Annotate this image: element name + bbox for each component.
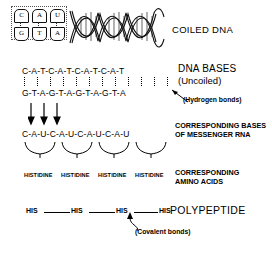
codon-brace-3 <box>136 142 166 154</box>
dna-inset-box: C A U G T A <box>11 6 67 40</box>
label-polypeptide: POLYPEPTIDE <box>170 204 245 216</box>
dna-double-helix-icon <box>68 1 168 49</box>
codon-brace-1 <box>62 142 92 154</box>
label-mrna-line1: CORRESPONDING BASES <box>175 121 266 130</box>
inset-top-base-2: U <box>50 9 65 23</box>
inset-top-base-1: A <box>32 9 47 23</box>
inset-bottom-base-1: T <box>32 27 47 41</box>
covalent-bond-0 <box>44 212 70 213</box>
hbond-3 <box>63 77 64 86</box>
diagram-canvas: C A U G T A <box>0 0 272 256</box>
amino-acid-label-1: HISTIDINE <box>61 172 90 178</box>
hbond-11 <box>167 77 168 86</box>
hbond-0 <box>24 77 25 86</box>
label-amino-line1: CORRESPONDING <box>175 168 239 177</box>
label-amino-acids: CORRESPONDING AMINO ACIDS <box>175 168 239 186</box>
residue-1: HIS <box>71 207 83 214</box>
label-covalent-bonds: (Covalent bonds) <box>135 228 191 235</box>
hbond-1 <box>37 77 38 86</box>
codon-brace-icons <box>24 141 172 159</box>
amino-acid-label-0: HISTIDINE <box>24 172 53 178</box>
hydrogen-bond-marks <box>24 77 174 87</box>
amino-acid-label-3: HISTIDINE <box>135 172 164 178</box>
transcription-arrows <box>28 102 68 126</box>
hbond-6 <box>102 77 103 86</box>
label-dna-uncoiled: (Uncoiled) <box>178 75 221 86</box>
label-mrna-line2: OF MESSENGER RNA <box>175 130 266 139</box>
mrna-strand: C-A-U-C-A-U-C-A-U-C-A-U <box>22 129 130 139</box>
dna-top-strand: C-A-T-C-A-T-C-A-T-C-A-T <box>22 66 124 76</box>
inset-top-base-0: C <box>14 9 29 23</box>
dna-bottom-strand: G-T-A-G-T-A-G-T-A-G-T-A <box>22 88 126 98</box>
hbond-7 <box>115 77 116 86</box>
label-messenger-rna: CORRESPONDING BASES OF MESSENGER RNA <box>175 121 266 139</box>
hbond-2 <box>50 77 51 86</box>
hbond-10 <box>154 77 155 86</box>
codon-brace-0 <box>25 142 55 154</box>
label-amino-line2: AMINO ACIDS <box>175 177 239 186</box>
label-dna-bases: DNA BASES <box>178 63 237 74</box>
hbond-5 <box>89 77 90 86</box>
residue-3: HIS <box>159 207 171 214</box>
amino-acid-label-2: HISTIDINE <box>98 172 127 178</box>
residue-0: HIS <box>26 207 38 214</box>
hbond-9 <box>141 77 142 86</box>
label-hydrogen-bonds: (Hydrogen bonds) <box>183 96 242 103</box>
label-coiled-dna: COILED DNA <box>172 24 233 35</box>
hbond-4 <box>76 77 77 86</box>
inset-bottom-base-2: A <box>50 27 65 41</box>
codon-brace-2 <box>99 142 129 154</box>
inset-bottom-base-0: G <box>14 27 29 41</box>
hbond-8 <box>128 77 129 86</box>
